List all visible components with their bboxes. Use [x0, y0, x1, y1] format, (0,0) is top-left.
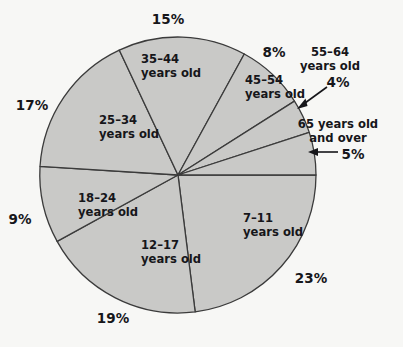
pct-label-7-11: 23% [295, 270, 328, 286]
callout-55-64: 55–64 years old 4% [300, 45, 360, 90]
pie-chart: 35–44 years old 45–54 years old 25–34 ye… [0, 0, 403, 347]
callout-65-and-over: 65 years old and over 5% [298, 117, 378, 162]
pie-slice-7-11[interactable] [178, 175, 316, 312]
pct-label-18-24: 9% [8, 211, 31, 227]
pct-label-12-17: 19% [97, 310, 130, 326]
callout-55-64-line1: 55–64 [300, 45, 360, 59]
pct-label-25-34: 17% [16, 97, 49, 113]
callout-65-line1: 65 years old [298, 117, 378, 131]
callout-55-64-pct: 4% [327, 74, 350, 90]
callout-65-pct: 5% [342, 146, 365, 162]
pct-label-35-44: 15% [152, 11, 185, 27]
pct-label-45-54: 8% [262, 44, 285, 60]
callout-65-line2: and over [298, 131, 378, 145]
callout-55-64-line2: years old [300, 59, 360, 73]
